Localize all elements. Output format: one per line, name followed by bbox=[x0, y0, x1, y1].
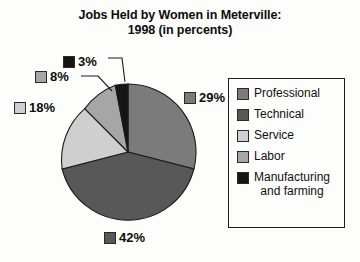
legend-label-professional: Professional bbox=[254, 86, 320, 100]
legend-swatch-service-icon bbox=[237, 130, 249, 142]
pie-chart-figure: Jobs Held by Women in Meterville: 1998 (… bbox=[0, 0, 360, 262]
callout-value-service: 18% bbox=[29, 101, 55, 115]
callout-service: 18% bbox=[14, 101, 55, 115]
swatch-labor-icon bbox=[35, 71, 47, 83]
callout-value-technical: 42% bbox=[119, 231, 145, 245]
chart-legend: Professional Technical Service Labor Man… bbox=[228, 78, 345, 228]
legend-label-service: Service bbox=[254, 128, 294, 142]
callout-professional: 29% bbox=[184, 91, 225, 105]
chart-title-line-1: Jobs Held by Women in Meterville: bbox=[79, 8, 282, 22]
leader-line-manufacturing bbox=[108, 58, 125, 82]
callout-value-professional: 29% bbox=[199, 91, 225, 105]
legend-swatch-professional-icon bbox=[237, 88, 249, 100]
swatch-service-icon bbox=[14, 102, 26, 114]
legend-item-technical: Technical bbox=[237, 107, 344, 121]
callout-labor: 8% bbox=[35, 70, 69, 84]
callout-value-manufacturing: 3% bbox=[78, 55, 97, 69]
swatch-professional-icon bbox=[184, 92, 196, 104]
legend-swatch-manufacturing-icon bbox=[237, 172, 249, 184]
callout-value-labor: 8% bbox=[50, 70, 69, 84]
legend-label-manufacturing-line-1: Manufacturing bbox=[254, 170, 330, 184]
legend-item-professional: Professional bbox=[237, 86, 344, 100]
legend-item-service: Service bbox=[237, 128, 344, 142]
legend-item-manufacturing-and-farming: Manufacturingand farming bbox=[237, 170, 344, 198]
callout-technical: 42% bbox=[104, 231, 145, 245]
swatch-manufacturing-icon bbox=[63, 56, 75, 68]
chart-title-line-2: 1998 (in percents) bbox=[0, 23, 360, 38]
swatch-technical-icon bbox=[104, 232, 116, 244]
callout-manufacturing: 3% bbox=[63, 55, 97, 69]
legend-item-labor: Labor bbox=[237, 149, 344, 163]
chart-title: Jobs Held by Women in Meterville: 1998 (… bbox=[0, 8, 360, 38]
legend-swatch-labor-icon bbox=[237, 151, 249, 163]
legend-label-manufacturing-and-farming: Manufacturingand farming bbox=[254, 170, 330, 198]
legend-swatch-technical-icon bbox=[237, 109, 249, 121]
pie-graphic bbox=[46, 44, 226, 244]
legend-label-manufacturing-line-2: and farming bbox=[254, 184, 330, 198]
legend-label-technical: Technical bbox=[254, 107, 304, 121]
pie-svg bbox=[46, 44, 226, 244]
legend-label-labor: Labor bbox=[254, 149, 285, 163]
